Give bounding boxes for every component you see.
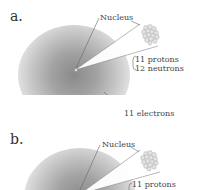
neutrons-label: 12 neutrons xyxy=(135,65,184,73)
protons-label: 11 protons xyxy=(135,56,179,64)
nucleus-callout-lines xyxy=(0,0,198,95)
electrons-label: 11 electrons xyxy=(124,110,174,118)
nucleus-label: Nucleus xyxy=(102,141,135,149)
panel-a: a. Nucleus 11 protons 12 neutrons xyxy=(0,0,198,95)
nucleus-label: Nucleus xyxy=(100,14,133,22)
protons-label: 11 protons xyxy=(132,181,176,189)
panel-b: b. Nucleus 11 protons xyxy=(0,128,198,190)
